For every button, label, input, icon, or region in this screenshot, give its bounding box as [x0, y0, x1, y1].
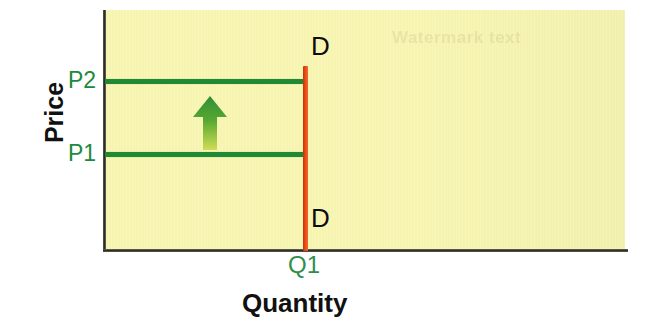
paper-shading	[105, 10, 625, 250]
plot-area	[105, 10, 625, 250]
price-increase-arrow-icon	[193, 96, 227, 150]
economics-demand-diagram: Watermark text P2 P1 Q1 D D Price Quanti…	[0, 0, 646, 334]
price-line-p2	[105, 79, 307, 84]
demand-label-bottom: D	[311, 205, 330, 231]
price-label-p1: P1	[68, 142, 96, 165]
demand-label-top: D	[311, 33, 330, 59]
price-line-p1	[105, 152, 307, 157]
y-axis-line	[103, 10, 106, 252]
x-axis-line	[103, 249, 628, 252]
demand-curve-line	[303, 66, 308, 251]
quantity-label-q1: Q1	[288, 253, 320, 277]
y-axis-label: Price	[42, 53, 67, 173]
price-label-p2: P2	[68, 69, 96, 92]
x-axis-label: Quantity	[242, 290, 347, 316]
